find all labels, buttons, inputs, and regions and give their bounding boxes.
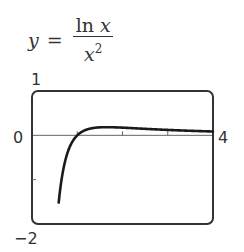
function-curve xyxy=(59,127,213,202)
axis-ticks xyxy=(32,131,168,179)
graph-frame xyxy=(32,91,213,224)
graph-plot xyxy=(0,0,244,252)
